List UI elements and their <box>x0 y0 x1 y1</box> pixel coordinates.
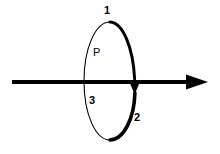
diagram-canvas <box>0 0 220 154</box>
label-point-1: 1 <box>104 5 110 16</box>
label-point-3: 3 <box>89 95 95 106</box>
loop-thick-lower-segment <box>110 93 135 140</box>
label-region-p: P <box>93 47 100 58</box>
label-point-2: 2 <box>134 112 140 123</box>
figure-container: 1 2 3 P <box>0 0 220 154</box>
wire-arrowhead <box>186 75 208 90</box>
loop-thick-upper-segment <box>110 22 135 79</box>
